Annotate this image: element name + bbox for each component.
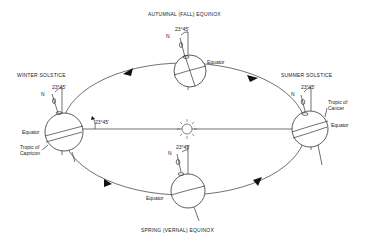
earth-globe-winter: [45, 113, 83, 151]
summer-tropic-label-2: Cancer: [328, 105, 344, 111]
autumnal-north-label: N: [166, 33, 170, 39]
orbit-arrow-bottom-right: [253, 177, 262, 186]
earth-globe-summer: [292, 111, 328, 147]
winter-north-label: N: [41, 91, 45, 97]
winter-tropic-label-2: Capricon: [20, 150, 40, 156]
position-summer: SUMMER SOLSTICE 23°45' N Tropic of Cance…: [281, 72, 349, 165]
orbit-arrow-top-left: [123, 68, 133, 76]
winter-equator-label: Equator: [22, 129, 40, 135]
summer-north-label: N: [291, 91, 295, 97]
spring-north-label: N: [168, 150, 172, 156]
autumnal-equator-label: Equator: [207, 59, 225, 65]
orbit-arrow-bottom-left: [104, 179, 112, 187]
winter-title: WINTER SOLSTICE: [17, 72, 66, 78]
position-winter: WINTER SOLSTICE 23°45' N Equator Tropic …: [17, 72, 109, 162]
summer-tilt-label: 23°45': [301, 84, 315, 90]
position-autumnal: AUTUMNAL (FALL) EQUINOX 23°45' N Equator: [148, 11, 225, 90]
summer-title: SUMMER SOLSTICE: [281, 72, 333, 78]
sun-icon: [177, 119, 197, 139]
orbit-diagram: AUTUMNAL (FALL) EQUINOX 23°45' N Equator…: [0, 0, 368, 243]
spring-equator-label: Equator: [146, 195, 164, 201]
position-spring: SPRING (VERNAL) EQUINOX 23°45' N Equator: [141, 144, 214, 233]
autumnal-title: AUTUMNAL (FALL) EQUINOX: [148, 11, 221, 17]
autumnal-tilt-label: 23°45': [175, 26, 189, 32]
spring-title: SPRING (VERNAL) EQUINOX: [141, 227, 214, 233]
spring-tilt-label: 23°45': [176, 144, 190, 150]
summer-equator-label: Equator: [331, 122, 349, 128]
winter-orbit-angle-label: 23°45': [95, 119, 109, 125]
earth-globe-spring: [171, 174, 205, 208]
winter-tilt-label: 23°45': [52, 84, 66, 90]
